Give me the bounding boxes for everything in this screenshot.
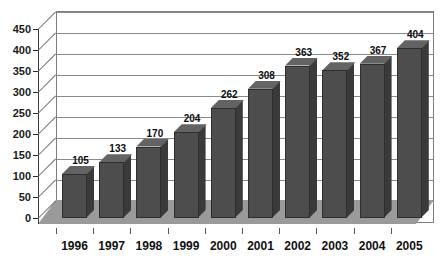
x-axis-label-2004: 2004 — [356, 239, 389, 253]
depth-line-50 — [38, 179, 56, 197]
x-tick-1997 — [93, 228, 94, 234]
bar-value-label-2005: 404 — [399, 29, 432, 40]
x-axis-label-1999: 1999 — [170, 239, 203, 253]
y-tick-200 — [33, 134, 38, 135]
bar-front-face-1996 — [62, 174, 87, 218]
x-axis-label-2002: 2002 — [281, 239, 314, 253]
depth-line-150 — [38, 137, 56, 155]
bar-side-face-1997 — [123, 154, 131, 218]
bar-front-face-1999 — [174, 132, 199, 218]
bar-value-label-2001: 308 — [250, 70, 283, 81]
gridline-400 — [57, 33, 433, 34]
bar-front-face-2004 — [360, 64, 385, 218]
bar-side-face-2001 — [272, 81, 280, 218]
x-tick-2000 — [205, 228, 206, 234]
bar-front-face-2000 — [211, 108, 236, 218]
bar-value-label-2002: 363 — [287, 47, 320, 58]
y-axis-label-100: 100 — [0, 171, 31, 182]
y-axis-label-300: 300 — [0, 87, 31, 98]
y-tick-400 — [33, 50, 38, 51]
bar-value-label-1996: 105 — [64, 155, 97, 166]
x-tick-2001 — [242, 228, 243, 234]
x-axis-label-1998: 1998 — [132, 239, 165, 253]
x-axis-label-1997: 1997 — [95, 239, 128, 253]
x-tick-2004 — [354, 228, 355, 234]
y-tick-150 — [33, 155, 38, 156]
y-tick-50 — [33, 197, 38, 198]
y-axis-label-250: 250 — [0, 108, 31, 119]
bar-value-label-1997: 133 — [101, 143, 134, 154]
bar-side-face-1996 — [86, 166, 94, 218]
depth-line-100 — [38, 158, 56, 176]
y-axis-label-400: 400 — [0, 45, 31, 56]
x-axis-label-1996: 1996 — [58, 239, 91, 253]
y-axis-label-50: 50 — [0, 192, 31, 203]
y-tick-350 — [33, 71, 38, 72]
bar-front-face-2003 — [322, 70, 347, 218]
bar-front-face-1998 — [136, 147, 161, 218]
x-axis-label-2003: 2003 — [318, 239, 351, 253]
x-tick-2005 — [391, 228, 392, 234]
bar-side-face-2002 — [309, 58, 317, 218]
bar-value-label-2000: 262 — [213, 89, 246, 100]
y-axis-label-450: 450 — [0, 24, 31, 35]
y-tick-450 — [33, 29, 38, 30]
x-axis-label-2001: 2001 — [244, 239, 277, 253]
bar-side-face-1998 — [160, 139, 168, 218]
y-axis-label-150: 150 — [0, 150, 31, 161]
y-axis-label-0: 0 — [0, 213, 31, 224]
bar-front-face-2005 — [397, 48, 422, 218]
bar-front-face-2002 — [285, 66, 310, 218]
gridline-450 — [57, 12, 433, 13]
bar-value-label-1999: 204 — [176, 113, 209, 124]
x-tick-1999 — [168, 228, 169, 234]
x-axis-label-2000: 2000 — [207, 239, 240, 253]
bar-value-label-1998: 170 — [138, 128, 171, 139]
bar-side-face-2005 — [421, 40, 429, 218]
bar-side-face-2003 — [346, 62, 354, 218]
bar-front-face-1997 — [99, 162, 124, 218]
depth-line-350 — [38, 53, 56, 71]
bar-value-label-2004: 367 — [362, 45, 395, 56]
y-axis-label-200: 200 — [0, 129, 31, 140]
bar-side-face-1999 — [198, 124, 206, 218]
bar-chart: 450 400 350 300 250 200 150 100 50 0 105… — [0, 0, 441, 270]
x-tick-1998 — [130, 228, 131, 234]
depth-line-450 — [38, 11, 56, 29]
y-axis-label-350: 350 — [0, 66, 31, 77]
depth-line-400 — [38, 32, 56, 50]
y-tick-0 — [33, 218, 38, 219]
x-axis-label-2005: 2005 — [393, 239, 426, 253]
y-tick-100 — [33, 176, 38, 177]
depth-line-250 — [38, 95, 56, 113]
bar-value-label-2003: 352 — [324, 51, 357, 62]
bar-side-face-2004 — [384, 56, 392, 218]
y-tick-300 — [33, 92, 38, 93]
x-tick-2002 — [279, 228, 280, 234]
bar-side-face-2000 — [235, 100, 243, 218]
x-tick-2003 — [316, 228, 317, 234]
x-tick-1996 — [56, 228, 57, 234]
depth-line-200 — [38, 116, 56, 134]
y-tick-250 — [33, 113, 38, 114]
depth-line-300 — [38, 74, 56, 92]
bar-front-face-2001 — [248, 89, 273, 218]
